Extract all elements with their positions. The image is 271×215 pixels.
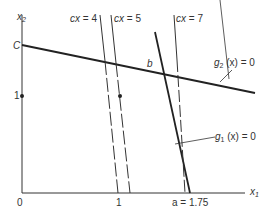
cx4-label: cx = 4 [70,14,97,24]
g1-constraint-line [155,32,190,193]
x-tick-label: 1 [116,198,122,208]
g1-label: g1 (x) = 0 [215,132,256,143]
y-tick-label: 1 [14,91,20,101]
cx4-line-solid [100,15,105,61]
cx7-label: cx = 7 [176,14,203,24]
cx4-line-dashed [105,61,118,193]
point-b-label: b [147,59,153,69]
cx5-label: cx = 5 [114,14,141,24]
g2-constraint-line [22,45,255,93]
y-tick-dot [20,94,24,98]
origin-label: 0 [17,198,23,208]
y-intercept-label: C [13,41,20,51]
cx5-line-dashed [116,63,130,193]
y-axis-label: x2 [17,12,26,23]
g1-leader-line [175,137,215,144]
point-dot [118,94,122,98]
diagram-canvas [0,0,271,215]
x-intercept-label: a = 1.75 [172,198,208,208]
g2-label: g2 (x) = 0 [214,58,255,69]
g2-leader-line [220,70,232,82]
x-axis-label: x1 [250,187,259,198]
cx7-line-dashed [177,60,185,193]
